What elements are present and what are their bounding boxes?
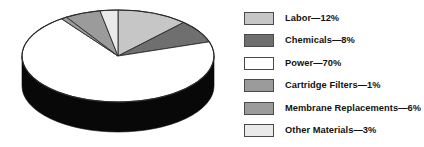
legend-item-labor: Labor—12% — [244, 7, 424, 30]
legend-item-power: Power—70% — [244, 52, 424, 75]
legend-swatch-chemicals — [244, 34, 274, 47]
legend-swatch-labor — [244, 12, 274, 25]
pie-svg — [0, 0, 230, 147]
legend-item-other-materials: Other Materials—3% — [244, 120, 424, 143]
legend-label-labor: Labor—12% — [285, 14, 339, 23]
legend-item-membrane-replacements: Membrane Replacements—6% — [244, 97, 424, 120]
chart-legend: Labor—12% Chemicals—8% Power—70% Cartrid… — [244, 7, 424, 143]
legend-swatch-membrane-replacements — [244, 102, 274, 115]
legend-label-power: Power—70% — [285, 59, 341, 68]
legend-swatch-cartridge-filters — [244, 79, 274, 92]
legend-swatch-other-materials — [244, 124, 274, 137]
legend-item-chemicals: Chemicals—8% — [244, 30, 424, 53]
legend-swatch-power — [244, 57, 274, 70]
legend-label-other-materials: Other Materials—3% — [285, 126, 376, 135]
legend-label-cartridge-filters: Cartridge Filters—1% — [285, 81, 381, 90]
legend-item-cartridge-filters: Cartridge Filters—1% — [244, 75, 424, 98]
pie-chart-graphic — [0, 0, 230, 147]
legend-label-chemicals: Chemicals—8% — [285, 36, 355, 45]
pie-chart-figure: Labor—12% Chemicals—8% Power—70% Cartrid… — [0, 0, 424, 147]
legend-label-membrane-replacements: Membrane Replacements—6% — [285, 104, 421, 113]
